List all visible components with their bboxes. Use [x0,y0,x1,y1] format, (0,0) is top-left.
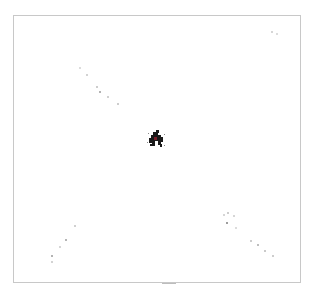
data-point [276,33,278,35]
data-point [227,212,229,214]
data-point [264,250,266,252]
data-point [107,96,109,98]
center-cluster [145,128,169,152]
data-point [51,255,53,257]
data-point [86,74,88,76]
data-point [99,91,101,93]
data-point [257,244,259,246]
data-point [233,215,235,217]
data-point [117,103,119,105]
data-point [65,239,67,241]
data-point [235,227,237,229]
data-point [272,255,274,257]
data-point [74,225,76,227]
data-point [51,261,53,263]
data-point [59,246,61,248]
data-point [271,31,273,33]
data-point [223,214,225,216]
data-point [96,86,98,88]
bottom-tick-mark [162,283,176,284]
data-point [226,222,228,224]
